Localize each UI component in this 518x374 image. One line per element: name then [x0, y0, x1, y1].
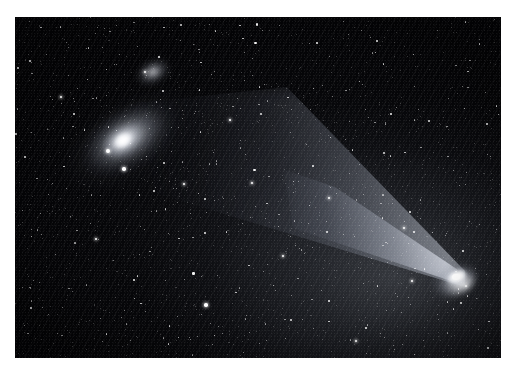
screenshot-root	[0, 0, 518, 374]
astrophotograph	[15, 17, 501, 358]
night-sky-background	[15, 17, 501, 358]
